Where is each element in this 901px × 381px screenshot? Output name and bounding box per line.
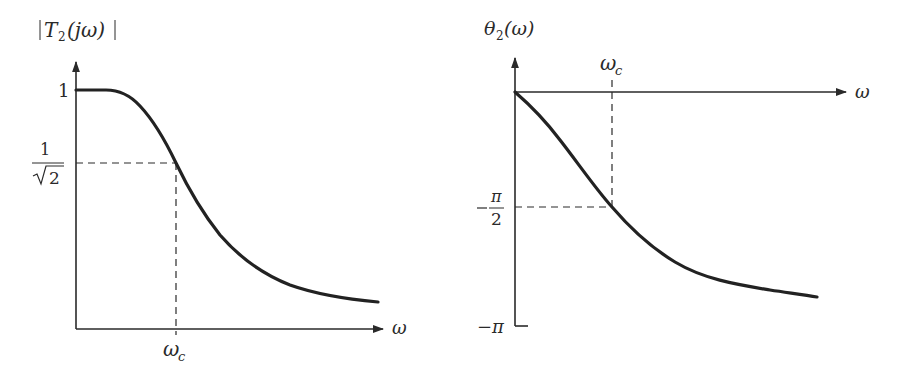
phase-curve <box>515 92 817 297</box>
svg-text:c: c <box>615 63 623 78</box>
svg-text:2: 2 <box>491 209 502 229</box>
magnitude-chart: T 2 (jω) ω 1 1 2 ω c <box>32 18 407 364</box>
phase-chart: θ 2 (ω) ω ω c π 2 −π <box>477 17 870 337</box>
y-tick-1: 1 <box>58 80 69 101</box>
magnitude-curve <box>76 90 378 302</box>
x-axis-label: ω <box>392 317 407 338</box>
x-tick-omega-c: ω c <box>600 51 623 78</box>
y-axis-label: T 2 (jω) <box>40 18 115 44</box>
svg-text:(jω): (jω) <box>67 18 105 42</box>
svg-text:2: 2 <box>58 30 66 44</box>
svg-text:θ: θ <box>484 17 496 39</box>
svg-text:2: 2 <box>496 29 504 43</box>
x-axis-label: ω <box>855 81 870 102</box>
svg-text:ω: ω <box>163 337 179 361</box>
figure: T 2 (jω) ω 1 1 2 ω c θ <box>0 0 901 381</box>
svg-text:2: 2 <box>49 168 60 188</box>
svg-text:ω: ω <box>600 51 616 75</box>
svg-text:c: c <box>178 349 186 364</box>
x-tick-omega-c: ω c <box>163 337 186 364</box>
svg-text:π: π <box>490 187 502 206</box>
y-tick-neg-pi: −π <box>477 316 505 337</box>
y-tick-neg-half-pi: π 2 <box>477 187 504 229</box>
svg-text:(ω): (ω) <box>504 17 534 39</box>
y-axis-label: θ 2 (ω) <box>484 17 534 43</box>
svg-text:1: 1 <box>40 140 50 159</box>
svg-text:T: T <box>44 18 59 42</box>
y-tick-inv-sqrt2: 1 2 <box>32 140 64 188</box>
